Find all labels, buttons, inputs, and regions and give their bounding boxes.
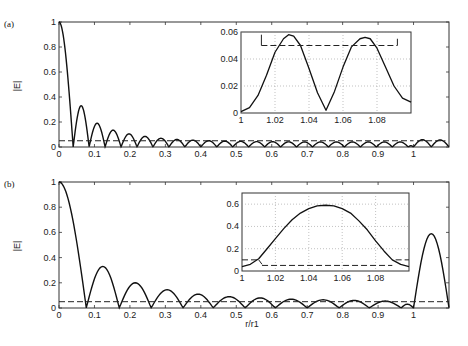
y-tick-label: 0.6 (43, 227, 56, 237)
inset-x-tick-label: 1.08 (367, 273, 385, 283)
y-tick-label: 0.8 (43, 42, 56, 52)
x-tick-label: 0.4 (195, 310, 208, 320)
x-tick-label: 0.3 (159, 149, 172, 159)
y-tick-label: 0.6 (43, 67, 56, 77)
inset-y-tick-label: 0.2 (226, 244, 239, 254)
inset-y-tick-label: 0 (234, 266, 239, 276)
inset-y-tick-label: 0.6 (226, 199, 239, 209)
x-tick-label: 0.9 (372, 149, 385, 159)
x-tick-label: 0.7 (301, 149, 314, 159)
y-tick-label: 1 (51, 17, 56, 27)
x-tick-label: 0.8 (336, 149, 349, 159)
inset-x-tick-label: 1.02 (267, 273, 285, 283)
x-tick-label: 0.3 (159, 310, 172, 320)
inset-y-tick-label: 0.04 (220, 54, 238, 64)
inset-plot: 11.021.041.061.0800.020.040.06 (220, 27, 411, 125)
inset-y-tick-label: 0 (233, 108, 238, 118)
x-tick-label: 0 (56, 149, 61, 159)
panel-label: (b) (4, 179, 15, 189)
x-tick-label: 0.9 (372, 310, 385, 320)
inset-x-tick-label: 1.02 (266, 115, 284, 125)
inset-x-tick-label: 1.06 (333, 273, 351, 283)
x-tick-label: 0.6 (265, 310, 278, 320)
x-tick-label: 1 (411, 149, 416, 159)
inset-plot: 11.021.041.061.0800.20.40.6 (226, 193, 409, 283)
x-tick-label: 0.1 (88, 149, 101, 159)
y-tick-label: 0.4 (43, 92, 56, 102)
inset-y-tick-label: 0.4 (226, 221, 239, 231)
x-tick-label: 0.2 (124, 149, 137, 159)
figure: (a)|E|00.10.20.30.40.50.60.70.80.9100.20… (0, 0, 468, 346)
inset-x-tick-label: 1.08 (368, 115, 386, 125)
inset-x-tick-label: 1.04 (300, 273, 318, 283)
x-tick-label: 0.4 (195, 149, 208, 159)
panel-a: (a)|E|00.10.20.30.40.50.60.70.80.9100.20… (4, 17, 449, 159)
panel-label: (a) (4, 19, 14, 29)
x-tick-label: 0.6 (265, 149, 278, 159)
y-tick-label: 0 (51, 303, 56, 313)
y-axis-label: |E| (12, 81, 22, 92)
x-tick-label: 0.7 (301, 310, 314, 320)
inset-y-tick-label: 0.02 (220, 81, 238, 91)
x-axis-label: r/r1 (245, 319, 259, 329)
y-tick-label: 0.4 (43, 253, 56, 263)
inset-x-tick-label: 1 (239, 273, 244, 283)
inset-y-tick-label: 0.06 (220, 27, 238, 37)
y-axis-label: |E| (12, 241, 22, 252)
x-tick-label: 1 (411, 310, 416, 320)
x-tick-label: 0 (56, 310, 61, 320)
y-tick-label: 0 (51, 142, 56, 152)
x-tick-label: 0.5 (230, 310, 243, 320)
y-tick-label: 1 (51, 177, 56, 187)
x-tick-label: 0.8 (336, 310, 349, 320)
x-tick-label: 0.2 (124, 310, 137, 320)
inset-x-tick-label: 1 (238, 115, 243, 125)
inset-frame (241, 32, 411, 113)
y-tick-label: 0.2 (43, 117, 56, 127)
y-tick-label: 0.2 (43, 278, 56, 288)
x-tick-label: 0.1 (88, 310, 101, 320)
y-tick-label: 0.8 (43, 202, 56, 212)
inset-x-tick-label: 1.06 (334, 115, 352, 125)
inset-x-tick-label: 1.04 (300, 115, 318, 125)
x-tick-label: 0.5 (230, 149, 243, 159)
panel-b: (b)|E|00.10.20.30.40.50.60.70.80.9100.20… (4, 177, 449, 329)
